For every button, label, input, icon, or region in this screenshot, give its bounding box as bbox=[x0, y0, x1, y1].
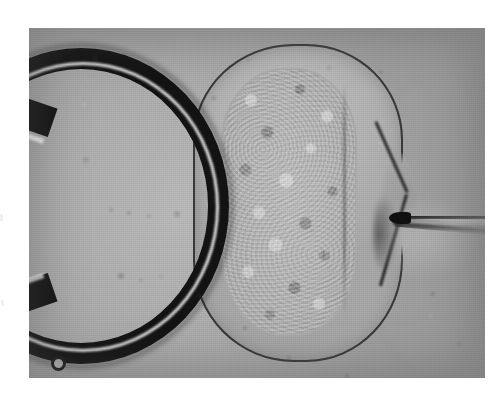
scan-margin-artifact-left-lower bbox=[1, 300, 4, 306]
figure-caption bbox=[29, 380, 485, 394]
figure-root bbox=[0, 0, 489, 396]
halftone-texture bbox=[29, 28, 485, 378]
scan-margin-artifact-left-upper bbox=[0, 214, 3, 221]
photomicrograph-image bbox=[29, 28, 485, 378]
